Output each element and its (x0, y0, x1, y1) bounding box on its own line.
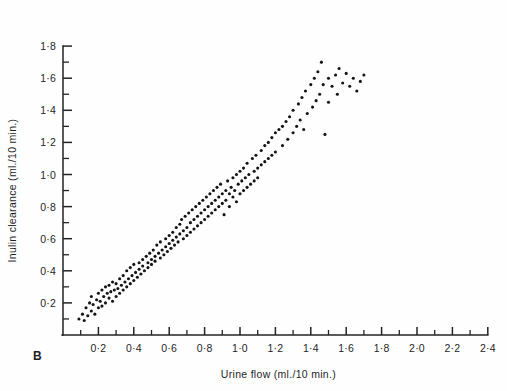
data-point (122, 289, 125, 292)
data-point (327, 77, 330, 80)
data-point (145, 255, 148, 258)
data-point (212, 189, 215, 192)
x-axis-tick-label: 1·2 (268, 342, 284, 354)
data-point (355, 89, 358, 92)
data-point (90, 309, 93, 312)
data-point (323, 133, 326, 136)
data-point (180, 218, 183, 221)
plot-canvas: 0·20·40·60·81·01·21·41·61·82·02·22·40·20… (0, 0, 507, 391)
data-point (129, 266, 132, 269)
data-point (203, 218, 206, 221)
data-point (134, 271, 137, 274)
scatter-plot-figure: 0·20·40·60·81·01·21·41·61·82·02·22·40·20… (0, 0, 507, 391)
data-point (251, 157, 254, 160)
data-point (146, 261, 149, 264)
data-point (315, 99, 318, 102)
data-point (267, 141, 270, 144)
x-axis-title: Urine flow (ml./10 min.) (221, 368, 336, 380)
data-point (318, 93, 321, 96)
data-point (155, 244, 158, 247)
data-point (161, 248, 164, 251)
data-point (226, 179, 229, 182)
data-point (125, 285, 128, 288)
data-point (253, 170, 256, 173)
scatter-series (77, 61, 365, 323)
data-point (200, 221, 203, 224)
data-point (107, 297, 110, 300)
x-axis-tick-label: 1·0 (232, 342, 248, 354)
data-point (207, 205, 210, 208)
data-point (316, 70, 319, 73)
data-point (235, 173, 238, 176)
data-point (238, 170, 241, 173)
data-point (168, 242, 171, 245)
data-point (246, 186, 249, 189)
data-point (191, 208, 194, 211)
data-point (270, 136, 273, 139)
data-point (302, 128, 305, 131)
data-point (295, 125, 298, 128)
data-point (299, 118, 302, 121)
data-point (217, 205, 220, 208)
data-point (90, 295, 93, 298)
data-point (143, 269, 146, 272)
data-point (341, 81, 344, 84)
data-point (274, 150, 277, 153)
y-axis-title: Inulin clearance (ml./10 min.) (6, 119, 18, 263)
data-point (185, 226, 188, 229)
data-point (338, 67, 341, 70)
data-point (348, 85, 351, 88)
data-point (231, 195, 234, 198)
y-axis-tick-label: 1·2 (40, 136, 56, 148)
data-point (277, 128, 280, 131)
data-point (263, 144, 266, 147)
data-point (201, 199, 204, 202)
data-point (109, 290, 112, 293)
data-point (253, 179, 256, 182)
data-point (336, 93, 339, 96)
data-point (107, 284, 110, 287)
data-point (192, 228, 195, 231)
data-point (223, 213, 226, 216)
data-point (77, 317, 80, 320)
data-point (327, 101, 330, 104)
data-point (313, 77, 316, 80)
x-axis-tick-label: 1·6 (338, 342, 354, 354)
data-point (254, 154, 257, 157)
data-point (304, 89, 307, 92)
data-point (111, 280, 114, 283)
data-point (152, 248, 155, 251)
data-point (159, 240, 162, 243)
data-point (99, 300, 102, 303)
data-point (242, 167, 245, 170)
data-point (311, 106, 314, 109)
data-point (102, 295, 105, 298)
x-axis-tick-label: 1·8 (374, 342, 390, 354)
data-point (81, 313, 84, 316)
data-point (113, 289, 116, 292)
data-point (297, 102, 300, 105)
data-point (178, 232, 181, 235)
data-point (189, 231, 192, 234)
data-point (274, 131, 277, 134)
x-axis-tick-label: 2·4 (480, 342, 496, 354)
data-point (175, 226, 178, 229)
data-point (228, 192, 231, 195)
data-point (244, 176, 247, 179)
data-point (168, 234, 171, 237)
data-point (198, 202, 201, 205)
data-point (175, 236, 178, 239)
data-point (210, 202, 213, 205)
data-point (86, 314, 89, 317)
data-point (150, 263, 153, 266)
data-point (92, 303, 95, 306)
data-point (106, 292, 109, 295)
data-point (219, 183, 222, 186)
data-point (322, 83, 325, 86)
data-point (100, 305, 103, 308)
data-point (146, 266, 149, 269)
data-point (247, 173, 250, 176)
data-point (148, 252, 151, 255)
data-point (118, 277, 121, 280)
data-point (221, 192, 224, 195)
